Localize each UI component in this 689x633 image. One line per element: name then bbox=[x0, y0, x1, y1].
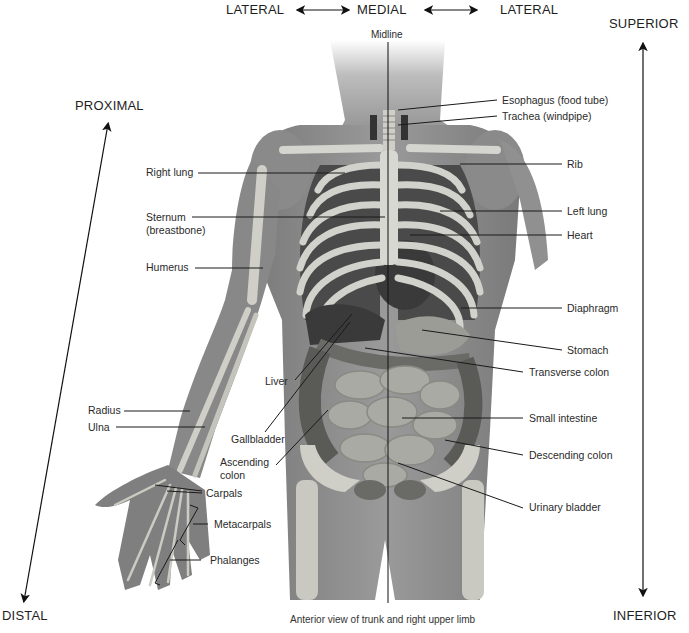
label-transverse-colon: Transverse colon bbox=[529, 366, 609, 379]
label-metacarpals: Metacarpals bbox=[214, 518, 271, 531]
direction-medial: MEDIAL bbox=[357, 2, 407, 17]
label-gallbladder: Gallbladder bbox=[231, 433, 285, 446]
direction-superior: SUPERIOR bbox=[609, 16, 679, 31]
direction-inferior: INFERIOR bbox=[613, 608, 677, 623]
label-left-lung: Left lung bbox=[567, 205, 607, 218]
label-ascending-colon: Ascending bbox=[220, 456, 269, 469]
direction-distal: DISTAL bbox=[2, 608, 48, 623]
label-right-lung: Right lung bbox=[146, 166, 193, 179]
label-descending-colon: Descending colon bbox=[529, 449, 612, 462]
label-radius: Radius bbox=[88, 404, 121, 417]
anatomy-figure: LATERAL MEDIAL LATERAL SUPERIOR INFERIOR… bbox=[0, 0, 689, 633]
label-sternum-sub: (breastbone) bbox=[146, 224, 206, 237]
label-heart: Heart bbox=[567, 229, 593, 242]
label-rib: Rib bbox=[567, 158, 583, 171]
label-ascending-colon-sub: colon bbox=[220, 469, 245, 482]
label-esophagus: Esophagus (food tube) bbox=[502, 94, 608, 107]
label-humerus: Humerus bbox=[146, 261, 189, 274]
label-small-intestine: Small intestine bbox=[529, 412, 597, 425]
label-urinary-bladder: Urinary bladder bbox=[529, 501, 601, 514]
label-carpals: Carpals bbox=[206, 487, 242, 500]
label-diaphragm: Diaphragm bbox=[567, 302, 618, 315]
label-trachea: Trachea (windpipe) bbox=[502, 110, 592, 123]
label-ulna: Ulna bbox=[88, 421, 110, 434]
label-liver: Liver bbox=[265, 375, 288, 388]
label-stomach: Stomach bbox=[567, 344, 608, 357]
direction-proximal: PROXIMAL bbox=[75, 98, 144, 113]
label-sternum: Sternum bbox=[146, 211, 186, 224]
direction-lateral-left: LATERAL bbox=[226, 2, 284, 17]
midline-label: Midline bbox=[371, 28, 403, 41]
direction-lateral-right: LATERAL bbox=[500, 2, 558, 17]
label-phalanges: Phalanges bbox=[210, 554, 260, 567]
figure-caption: Anterior view of trunk and right upper l… bbox=[290, 614, 475, 625]
